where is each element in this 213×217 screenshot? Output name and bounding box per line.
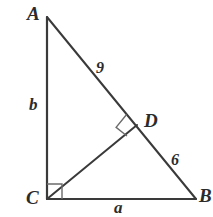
vertex-label-C: C xyxy=(26,188,39,207)
right-angle-mark-D xyxy=(116,115,127,137)
side-label-DB-length: 6 xyxy=(171,152,179,168)
side-label-AD-length: 9 xyxy=(96,60,104,76)
vertex-label-B: B xyxy=(199,186,212,205)
segment-CD-altitude xyxy=(47,125,137,199)
vertex-label-A: A xyxy=(27,4,40,23)
segment-AB-hypotenuse xyxy=(47,17,196,199)
side-label-a: a xyxy=(114,199,123,216)
side-label-b: b xyxy=(29,96,38,113)
vertex-label-D: D xyxy=(144,111,158,130)
geometry-figure: A C B D b a 9 6 xyxy=(0,0,213,217)
